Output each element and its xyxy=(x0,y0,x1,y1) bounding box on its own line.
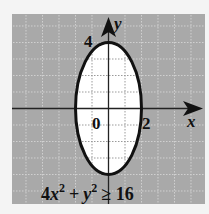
y-tick-label: 4 xyxy=(84,32,93,51)
inequality-label: 4x2+y2≥ 16 xyxy=(41,181,134,204)
x-axis-label: x xyxy=(186,112,196,131)
y-axis-label: y xyxy=(112,14,122,33)
x-tick-label: 2 xyxy=(142,114,151,133)
inequality-graph: y x 4 2 0 4x2+y2≥ 16 xyxy=(0,0,209,214)
origin-label: 0 xyxy=(92,114,101,133)
